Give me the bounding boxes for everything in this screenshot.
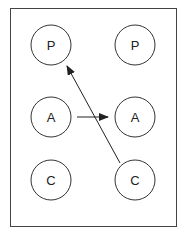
node-right-a: A xyxy=(115,97,155,137)
node-label: C xyxy=(46,173,55,188)
node-label: P xyxy=(47,38,56,53)
diagram-canvas: P P A A C C xyxy=(0,0,185,238)
node-left-a: A xyxy=(31,97,71,137)
node-right-c: C xyxy=(115,160,155,200)
node-label: C xyxy=(130,173,139,188)
node-label: P xyxy=(131,38,140,53)
node-label: A xyxy=(47,110,56,125)
node-right-p: P xyxy=(115,25,155,65)
node-left-p: P xyxy=(31,25,71,65)
arrow-c-to-p xyxy=(67,66,120,163)
node-label: A xyxy=(131,110,140,125)
node-left-c: C xyxy=(31,160,71,200)
